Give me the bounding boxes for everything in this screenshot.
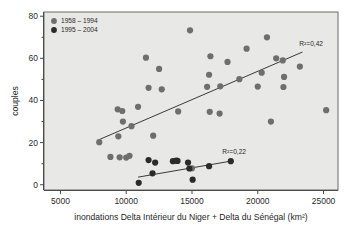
data-point-series-0-24 xyxy=(217,83,223,89)
x-tick-label-5000: 5000 xyxy=(51,196,70,206)
data-point-series-0-0 xyxy=(96,139,102,145)
data-point-series-0-31 xyxy=(268,118,274,124)
y-tick-label-20: 20 xyxy=(29,138,39,148)
data-point-series-0-35 xyxy=(281,74,287,80)
x-tick-label-20000: 20000 xyxy=(246,196,270,206)
data-point-series-0-34 xyxy=(280,84,286,90)
data-point-series-0-26 xyxy=(236,76,242,82)
y-tick-label-40: 40 xyxy=(29,95,39,105)
data-point-series-0-12 xyxy=(145,85,151,91)
x-tick-label-15000: 15000 xyxy=(180,196,204,206)
legend-marker-1 xyxy=(51,27,57,33)
data-point-series-0-9 xyxy=(128,123,134,129)
data-point-series-0-5 xyxy=(119,108,125,114)
data-point-series-0-36 xyxy=(297,63,303,69)
data-point-series-1-11 xyxy=(228,158,234,164)
data-point-series-0-19 xyxy=(204,84,210,90)
data-point-series-1-3 xyxy=(152,160,158,166)
legend-marker-0 xyxy=(51,18,57,24)
data-point-series-1-8 xyxy=(186,165,192,171)
data-point-series-0-29 xyxy=(259,70,265,76)
data-point-series-0-15 xyxy=(159,86,165,92)
data-point-series-0-30 xyxy=(264,34,270,40)
data-point-series-0-1 xyxy=(107,154,113,160)
data-point-series-0-13 xyxy=(150,133,156,139)
data-point-series-0-14 xyxy=(156,66,162,72)
data-point-series-1-10 xyxy=(206,163,212,169)
data-point-series-0-32 xyxy=(273,55,279,61)
r2-label-series-0: R²=0,42 xyxy=(299,40,323,47)
scatter-chart-figure: 020406080500010000150002000025000couples… xyxy=(0,0,346,235)
data-point-series-0-25 xyxy=(224,59,230,65)
data-point-series-0-22 xyxy=(207,53,213,59)
data-point-series-0-8 xyxy=(126,153,132,159)
data-point-series-0-11 xyxy=(143,55,149,61)
x-tick-label-25000: 25000 xyxy=(312,196,336,206)
r2-label-series-1: R²=0,22 xyxy=(222,148,246,155)
legend-label-1: 1995 – 2004 xyxy=(61,26,98,33)
data-point-series-0-6 xyxy=(120,118,126,124)
data-point-series-1-0 xyxy=(136,180,142,186)
data-point-series-0-33 xyxy=(280,57,286,63)
data-point-series-0-23 xyxy=(217,110,223,116)
data-point-series-0-3 xyxy=(115,133,121,139)
data-point-series-0-16 xyxy=(175,108,181,114)
data-point-series-0-17 xyxy=(187,27,193,33)
y-tick-label-80: 80 xyxy=(29,11,39,21)
chart-canvas: 020406080500010000150002000025000couples… xyxy=(0,0,346,235)
data-point-series-0-4 xyxy=(117,154,123,160)
data-point-series-0-27 xyxy=(243,46,249,52)
y-tick-label-60: 60 xyxy=(29,53,39,63)
y-tick-label-0: 0 xyxy=(33,180,38,190)
data-point-series-1-6 xyxy=(174,158,180,164)
data-point-series-0-37 xyxy=(323,107,329,113)
legend-label-0: 1958 – 1994 xyxy=(61,17,98,24)
data-point-series-1-7 xyxy=(185,160,191,166)
data-point-series-1-2 xyxy=(149,170,155,176)
x-axis-title: inondations Delta Intérieur du Niger + D… xyxy=(74,212,307,222)
data-point-series-0-20 xyxy=(206,72,212,78)
x-tick-label-10000: 10000 xyxy=(114,196,138,206)
data-point-series-1-1 xyxy=(145,157,151,163)
data-point-series-1-9 xyxy=(190,177,196,183)
data-point-series-0-28 xyxy=(255,83,261,89)
data-point-series-0-10 xyxy=(135,104,141,110)
data-point-series-0-21 xyxy=(207,109,213,115)
y-axis-title: couples xyxy=(10,86,20,116)
